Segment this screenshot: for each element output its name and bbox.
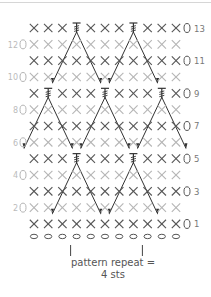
single-crochet-icon xyxy=(87,203,95,211)
single-crochet-icon xyxy=(115,220,123,228)
single-crochet-icon xyxy=(101,138,109,146)
single-crochet-icon xyxy=(115,154,123,162)
pattern-repeat-line2: 4 sts xyxy=(50,269,176,281)
single-crochet-icon xyxy=(129,122,137,130)
single-crochet-icon xyxy=(58,105,66,113)
single-crochet-icon xyxy=(58,24,66,32)
single-crochet-icon xyxy=(101,220,109,228)
chain-icon xyxy=(20,203,26,212)
single-crochet-icon xyxy=(158,73,166,81)
single-crochet-icon xyxy=(44,24,52,32)
single-crochet-icon xyxy=(129,89,137,97)
single-crochet-icon xyxy=(87,73,95,81)
single-crochet-icon xyxy=(58,89,66,97)
single-crochet-icon xyxy=(58,40,66,48)
single-crochet-icon xyxy=(158,203,166,211)
single-crochet-icon xyxy=(172,89,180,97)
single-crochet-icon xyxy=(30,171,38,179)
single-crochet-icon xyxy=(87,220,95,228)
chain-icon xyxy=(158,234,165,238)
spike-stitch-icon xyxy=(73,154,81,164)
single-crochet-icon xyxy=(115,40,123,48)
single-crochet-icon xyxy=(101,171,109,179)
chain-icon xyxy=(172,234,179,238)
spike-stitch-icon xyxy=(129,154,137,164)
chain-icon xyxy=(20,72,26,81)
single-crochet-icon xyxy=(101,40,109,48)
single-crochet-icon xyxy=(115,203,123,211)
chain-icon xyxy=(87,234,94,238)
single-crochet-icon xyxy=(172,105,180,113)
single-crochet-icon xyxy=(44,203,52,211)
single-crochet-icon xyxy=(30,105,38,113)
single-crochet-icon xyxy=(115,105,123,113)
single-crochet-icon xyxy=(87,138,95,146)
row-number-label: 4 xyxy=(13,171,18,180)
single-crochet-icon xyxy=(72,220,80,228)
single-crochet-icon xyxy=(30,203,38,211)
chain-icon xyxy=(20,105,26,114)
single-crochet-icon xyxy=(115,187,123,195)
single-crochet-icon xyxy=(58,56,66,64)
single-crochet-icon xyxy=(172,73,180,81)
single-crochet-icon xyxy=(30,56,38,64)
single-crochet-icon xyxy=(87,171,95,179)
single-crochet-icon xyxy=(101,73,109,81)
chain-icon xyxy=(73,234,80,238)
single-crochet-icon xyxy=(172,220,180,228)
chain-icon xyxy=(184,24,190,33)
single-crochet-icon xyxy=(158,40,166,48)
single-crochet-icon xyxy=(44,105,52,113)
row-number-label: 3 xyxy=(194,187,199,197)
single-crochet-icon xyxy=(143,220,151,228)
single-crochet-icon xyxy=(72,89,80,97)
single-crochet-icon xyxy=(101,105,109,113)
single-crochet-icon xyxy=(158,105,166,113)
single-crochet-icon xyxy=(115,171,123,179)
single-crochet-icon xyxy=(101,122,109,130)
single-crochet-icon xyxy=(72,171,80,179)
single-crochet-icon xyxy=(143,105,151,113)
spike-stitch-icon xyxy=(129,23,137,33)
single-crochet-icon xyxy=(87,122,95,130)
chain-icon xyxy=(45,234,52,238)
single-crochet-icon xyxy=(158,122,166,130)
single-crochet-icon xyxy=(172,203,180,211)
single-crochet-icon xyxy=(158,187,166,195)
row-number-label: 7 xyxy=(194,121,199,131)
single-crochet-icon xyxy=(30,40,38,48)
chain-icon xyxy=(116,234,123,238)
single-crochet-icon xyxy=(30,73,38,81)
single-crochet-icon xyxy=(115,73,123,81)
single-crochet-icon xyxy=(58,154,66,162)
single-crochet-icon xyxy=(44,138,52,146)
single-crochet-icon xyxy=(172,138,180,146)
row-number-label: 1 xyxy=(194,219,199,229)
single-crochet-icon xyxy=(58,171,66,179)
single-crochet-icon xyxy=(72,105,80,113)
repeat-markers xyxy=(71,245,143,256)
single-crochet-icon xyxy=(87,56,95,64)
single-crochet-icon xyxy=(172,122,180,130)
row-number-label: 5 xyxy=(194,154,199,164)
single-crochet-icon xyxy=(30,122,38,130)
spike-stitch-icon xyxy=(101,88,109,98)
single-crochet-icon xyxy=(30,24,38,32)
row-number-label: 10 xyxy=(8,73,18,82)
single-crochet-icon xyxy=(172,187,180,195)
single-crochet-icon xyxy=(158,56,166,64)
row-number-label: 13 xyxy=(194,24,205,34)
single-crochet-icon xyxy=(44,40,52,48)
single-crochet-icon xyxy=(30,187,38,195)
single-crochet-icon xyxy=(72,40,80,48)
single-crochet-icon xyxy=(129,187,137,195)
single-crochet-icon xyxy=(143,73,151,81)
single-crochet-icon xyxy=(158,154,166,162)
single-crochet-icon xyxy=(72,122,80,130)
single-crochet-icon xyxy=(87,89,95,97)
single-crochet-icon xyxy=(58,73,66,81)
chain-icon xyxy=(184,56,190,65)
crochet-chart: 13121110987654321 xyxy=(0,0,211,297)
single-crochet-icon xyxy=(143,122,151,130)
stitch-grid xyxy=(30,23,180,228)
